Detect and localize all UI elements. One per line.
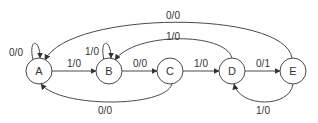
state-label-B: B: [105, 65, 112, 77]
edge-A-A: [32, 43, 40, 60]
edge-label-B-B: 1/0: [85, 46, 99, 57]
state-A: A: [26, 58, 52, 84]
edge-label-A-A: 0/0: [9, 47, 23, 58]
state-B: B: [96, 58, 122, 84]
edge-label-C-A: 0/0: [98, 105, 112, 116]
edge-E-D: [234, 84, 293, 102]
state-E: E: [280, 58, 306, 84]
state-label-D: D: [228, 65, 236, 77]
edge-label-C-D: 1/0: [194, 58, 208, 69]
edge-label-B-C: 0/0: [133, 58, 147, 69]
edge-label-E-D: 1/0: [256, 105, 270, 116]
edge-label-A-B: 1/0: [67, 58, 81, 69]
state-label-E: E: [289, 65, 296, 77]
state-diagram: 0/0 1/0 1/0 0/0 1/0 0/1 0/0 1/0 0/0 1/0 …: [0, 0, 318, 123]
state-label-C: C: [166, 65, 174, 77]
state-label-A: A: [35, 65, 43, 77]
edge-C-A: [41, 84, 172, 102]
edge-B-B: [103, 43, 111, 60]
edge-label-E-A: 0/0: [166, 10, 180, 21]
edge-label-D-B: 1/0: [166, 31, 180, 42]
state-C: C: [157, 58, 183, 84]
state-D: D: [219, 58, 245, 84]
edge-label-D-E: 0/1: [256, 58, 270, 69]
